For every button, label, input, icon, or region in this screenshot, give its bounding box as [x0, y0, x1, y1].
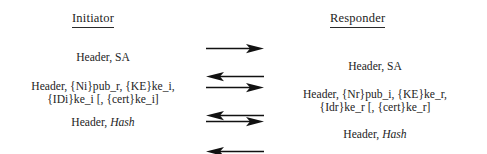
message-initiator-1: Header, SA [0, 51, 206, 64]
message-initiator-3: Header, Hash [0, 116, 206, 129]
message-line: Header, Hash [266, 128, 484, 141]
message-line: Header, SA [266, 60, 484, 73]
message-line: {Idr}ke_r [, {cert}ke_r] [266, 101, 484, 114]
message-text-italic: Hash [110, 116, 134, 129]
left-arrow-icon [205, 145, 265, 154]
right-arrow-icon [205, 81, 265, 107]
column-heading-initiator: Initiator [72, 11, 114, 28]
message-text-italic: Hash [382, 128, 406, 141]
message-line: Header, Hash [0, 116, 206, 129]
right-arrow-icon [205, 42, 265, 68]
message-responder-2: Header, {Nr}pub_i, {KE}ke_r, {Idr}ke_r [… [266, 88, 484, 114]
message-line: {IDi}ke_i [, {cert}ke_i] [0, 93, 206, 106]
message-line: Header, {Ni}pub_r, {KE}ke_i, [0, 80, 206, 93]
message-line: Header, {Nr}pub_i, {KE}ke_r, [266, 88, 484, 101]
message-initiator-2: Header, {Ni}pub_r, {KE}ke_i, {IDi}ke_i [… [0, 80, 206, 106]
arrow-pair-exchange-2 [205, 81, 265, 107]
right-arrow-icon [205, 115, 265, 141]
protocol-sequence-diagram: Initiator Responder Header, SA Header, S… [0, 0, 487, 154]
message-text: Header, [343, 128, 382, 141]
message-line: Header, SA [0, 51, 206, 64]
message-responder-1: Header, SA [266, 60, 484, 73]
column-heading-responder: Responder [330, 11, 385, 28]
message-responder-3: Header, Hash [266, 128, 484, 141]
arrow-pair-exchange-3 [205, 115, 265, 141]
arrow-pair-exchange-1 [205, 42, 265, 68]
message-text: Header, [71, 116, 110, 129]
